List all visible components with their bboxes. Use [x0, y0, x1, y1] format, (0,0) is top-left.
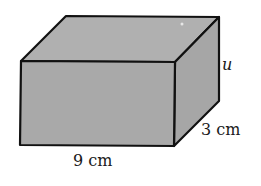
- prism-diagram: u 3 cm 9 cm: [0, 0, 261, 186]
- length-label: 9 cm: [73, 151, 112, 170]
- front-face: [20, 61, 175, 146]
- speck-mark: [181, 23, 184, 26]
- height-label: u: [222, 55, 232, 74]
- prism-svg: u 3 cm 9 cm: [0, 0, 261, 186]
- depth-label: 3 cm: [201, 120, 240, 139]
